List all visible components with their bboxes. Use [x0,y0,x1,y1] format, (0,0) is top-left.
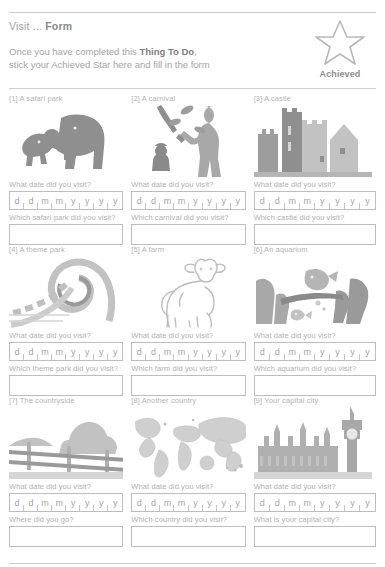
date-char[interactable]: m [285,192,300,209]
text-input-another-country[interactable] [131,526,245,547]
date-char[interactable]: d [24,343,38,360]
date-input-carnival[interactable]: d d m m y y y y [131,191,245,210]
date-char[interactable]: y [217,192,231,209]
date-input-theme-park[interactable]: d d m m y y y y [9,342,123,361]
date-input-another-country[interactable]: d d m m y y y y [131,493,245,512]
date-char[interactable]: y [108,343,122,360]
cell-label: [6] An aquarium [254,245,376,254]
date-char[interactable]: d [146,192,160,209]
date-char[interactable]: y [345,494,360,511]
date-char[interactable]: d [146,343,160,360]
date-char[interactable]: m [300,494,315,511]
date-char[interactable]: y [231,343,245,360]
activity-cell-safari-park: [1] A safari park What date did you visi… [9,94,131,245]
date-char[interactable]: d [132,343,146,360]
date-char[interactable]: y [80,192,94,209]
date-char[interactable]: y [315,343,330,360]
date-char[interactable]: m [38,343,52,360]
date-char[interactable]: d [10,192,24,209]
cell-label: [8] Another country [131,396,245,405]
date-char[interactable]: y [360,343,375,360]
date-char[interactable]: d [270,494,285,511]
text-question-label: Which safari park did you visit? [9,213,123,222]
date-question-label: What date did you visit? [9,482,123,491]
date-char[interactable]: d [132,494,146,511]
date-char[interactable]: y [330,192,345,209]
date-char[interactable]: m [174,343,188,360]
text-input-carnival[interactable] [131,224,245,245]
text-input-theme-park[interactable] [9,375,123,396]
date-char[interactable]: y [203,343,217,360]
date-char[interactable]: y [231,192,245,209]
date-char[interactable]: y [330,343,345,360]
date-char[interactable]: m [52,343,66,360]
date-input-castle[interactable]: d d m m y y y y [254,191,376,210]
date-char[interactable]: m [174,192,188,209]
date-char[interactable]: m [52,192,66,209]
date-char[interactable]: y [66,494,80,511]
date-question-label: What date did you visit? [9,180,123,189]
date-char[interactable]: y [345,343,360,360]
date-char[interactable]: y [66,343,80,360]
date-char[interactable]: d [24,494,38,511]
date-input-aquarium[interactable]: d d m m y y y y [254,342,376,361]
date-char[interactable]: m [160,343,174,360]
date-input-countryside[interactable]: d d m m y y y y [9,493,123,512]
date-char[interactable]: d [10,343,24,360]
date-char[interactable]: m [160,192,174,209]
date-char[interactable]: y [360,192,375,209]
date-char[interactable]: d [255,343,270,360]
date-char[interactable]: y [108,192,122,209]
date-input-capital-city[interactable]: d d m m y y y y [254,493,376,512]
date-char[interactable]: m [285,343,300,360]
date-input-safari-park[interactable]: d d m m y y y y [9,191,123,210]
date-question-label: What date did you visit? [131,180,245,189]
date-char[interactable]: y [217,494,231,511]
date-char[interactable]: y [360,494,375,511]
date-char[interactable]: y [80,343,94,360]
date-char[interactable]: d [270,343,285,360]
date-char[interactable]: m [38,494,52,511]
footer-divider-top [9,563,376,564]
date-char[interactable]: m [285,494,300,511]
text-input-farm[interactable] [131,375,245,396]
date-char[interactable]: d [10,494,24,511]
date-char[interactable]: d [255,192,270,209]
date-char[interactable]: y [315,192,330,209]
date-char[interactable]: m [300,343,315,360]
text-input-safari-park[interactable] [9,224,123,245]
date-char[interactable]: d [270,192,285,209]
date-char[interactable]: y [108,494,122,511]
date-char[interactable]: y [80,494,94,511]
date-char[interactable]: y [189,192,203,209]
date-char[interactable]: d [146,494,160,511]
date-question-label: What date did you visit? [131,482,245,491]
date-char[interactable]: d [255,494,270,511]
text-input-countryside[interactable] [9,526,123,547]
date-char[interactable]: y [189,343,203,360]
date-char[interactable]: y [189,494,203,511]
date-char[interactable]: y [345,192,360,209]
date-char[interactable]: y [315,494,330,511]
date-char[interactable]: y [217,343,231,360]
date-char[interactable]: y [231,494,245,511]
date-char[interactable]: m [300,192,315,209]
text-input-castle[interactable] [254,224,376,245]
date-char[interactable]: m [52,494,66,511]
date-char[interactable]: y [330,494,345,511]
date-char[interactable]: d [24,192,38,209]
date-char[interactable]: y [94,343,108,360]
date-char[interactable]: y [66,192,80,209]
text-input-aquarium[interactable] [254,375,376,396]
date-char[interactable]: y [203,192,217,209]
date-char[interactable]: m [160,494,174,511]
date-char[interactable]: y [94,494,108,511]
page-footer [9,563,376,567]
date-char[interactable]: d [132,192,146,209]
date-char[interactable]: y [203,494,217,511]
date-char[interactable]: y [94,192,108,209]
date-char[interactable]: m [174,494,188,511]
text-input-capital-city[interactable] [254,526,376,547]
date-input-farm[interactable]: d d m m y y y y [131,342,245,361]
date-char[interactable]: m [38,192,52,209]
